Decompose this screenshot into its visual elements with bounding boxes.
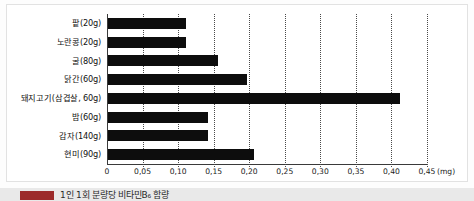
category-label: 노란콩(20g) bbox=[57, 33, 101, 52]
x-tick-label: 0,20 bbox=[241, 167, 258, 176]
category-label: 밤(60g) bbox=[72, 108, 101, 127]
bar bbox=[108, 149, 254, 160]
gridline bbox=[391, 14, 392, 167]
gridline bbox=[356, 14, 357, 167]
x-tick-label: 0,30 bbox=[312, 167, 329, 176]
category-label: 현미(90g) bbox=[64, 145, 101, 164]
x-axis-line bbox=[107, 164, 427, 165]
caption-color-swatch bbox=[20, 191, 54, 200]
category-label: 돼지고기(삼겹살, 60g) bbox=[21, 89, 101, 108]
bar bbox=[108, 18, 186, 29]
x-axis-unit-label: (mg) bbox=[437, 167, 455, 176]
gridline bbox=[320, 14, 321, 167]
plot-area: 00,050,100,150,200,250,300,350,400,45 (m… bbox=[107, 14, 427, 164]
gridline bbox=[249, 14, 250, 167]
gridline bbox=[285, 14, 286, 167]
figure-root: 팥(20g)노란콩(20g)굴(80g)닭간(60g)돼지고기(삼겹살, 60g… bbox=[0, 0, 474, 201]
bar bbox=[108, 74, 247, 85]
caption-text: 1인 1회 분량당 비타민B₆ 함량 bbox=[60, 190, 169, 201]
category-label: 감자(140g) bbox=[59, 127, 101, 146]
category-axis-labels: 팥(20g)노란콩(20g)굴(80g)닭간(60g)돼지고기(삼겹살, 60g… bbox=[7, 14, 105, 164]
category-label: 굴(80g) bbox=[72, 52, 101, 71]
x-tick-label: 0,15 bbox=[205, 167, 222, 176]
gridline bbox=[214, 14, 215, 167]
category-label: 닭간(60g) bbox=[64, 70, 101, 89]
x-tick-label: 0,35 bbox=[347, 167, 364, 176]
category-label: 팥(20g) bbox=[72, 14, 101, 33]
x-tick-label: 0,40 bbox=[383, 167, 400, 176]
x-tick-label: 0,10 bbox=[170, 167, 187, 176]
bar bbox=[108, 55, 218, 66]
x-tick-label: 0 bbox=[105, 167, 110, 176]
bar bbox=[108, 130, 208, 141]
chart-card: 팥(20g)노란콩(20g)굴(80g)닭간(60g)돼지고기(삼겹살, 60g… bbox=[6, 4, 468, 182]
bar bbox=[108, 37, 186, 48]
x-tick-label: 0,45 bbox=[419, 167, 436, 176]
caption-banner: 1인 1회 분량당 비타민B₆ 함량 bbox=[0, 188, 474, 201]
x-tick-label: 0,05 bbox=[134, 167, 151, 176]
x-tick-label: 0,25 bbox=[276, 167, 293, 176]
bar bbox=[108, 112, 208, 123]
bar bbox=[108, 93, 400, 104]
gridline bbox=[427, 14, 428, 167]
bar-chart: 팥(20g)노란콩(20g)굴(80g)닭간(60g)돼지고기(삼겹살, 60g… bbox=[7, 5, 469, 183]
